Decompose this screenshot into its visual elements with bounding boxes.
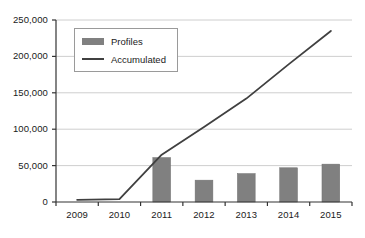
legend-label-profiles: Profiles [111, 36, 143, 47]
x-axis-tick-label: 2012 [184, 210, 224, 220]
y-axis-tick-label: 50,000 [2, 161, 48, 171]
chart-legend: Profiles Accumulated [74, 28, 178, 72]
bar [322, 164, 340, 202]
bar-series-profiles [153, 158, 340, 202]
chart-plot-area [0, 0, 365, 238]
x-axis-tick-label: 2010 [99, 210, 139, 220]
y-axis-tick-label: 100,000 [2, 124, 48, 134]
y-axis-tick-label: 250,000 [2, 15, 48, 25]
y-axis-tick-label: 200,000 [2, 51, 48, 61]
chart-container: 050,000100,000150,000200,000250,000 2009… [0, 0, 365, 238]
legend-item-profiles: Profiles [82, 34, 143, 48]
legend-label-accumulated: Accumulated [111, 54, 166, 65]
x-axis-ticks [56, 202, 352, 206]
bar [153, 158, 171, 202]
legend-bar-swatch-icon [82, 38, 104, 45]
y-axis-tick-label: 150,000 [2, 88, 48, 98]
y-axis-tick-label: 0 [2, 197, 48, 207]
x-axis-tick-label: 2009 [57, 210, 97, 220]
bar [237, 174, 255, 202]
bar [280, 168, 298, 202]
legend-item-accumulated: Accumulated [82, 52, 166, 66]
x-axis-tick-label: 2015 [311, 210, 351, 220]
legend-line-swatch-icon [82, 58, 104, 60]
x-axis-tick-label: 2013 [226, 210, 266, 220]
x-axis-tick-label: 2011 [142, 210, 182, 220]
x-axis-tick-label: 2014 [269, 210, 309, 220]
bar [195, 180, 213, 202]
